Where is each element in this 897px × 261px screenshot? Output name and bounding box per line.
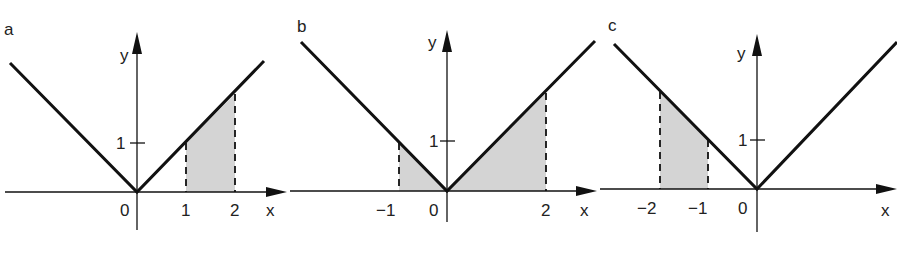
y-tick-label: 1 — [738, 131, 747, 150]
function-graph — [614, 42, 897, 189]
y-axis-label: y — [737, 44, 746, 63]
x-tick-label: 0 — [120, 201, 129, 220]
x-tick-label: 1 — [181, 201, 190, 220]
panel-a: a y 1 0 1 2 x — [4, 20, 287, 230]
x-axis-label: x — [881, 201, 890, 220]
shaded-region — [186, 94, 235, 192]
y-axis-arrow-icon — [442, 30, 452, 52]
y-axis-label: y — [428, 33, 437, 52]
y-axis-label: y — [120, 46, 129, 65]
shaded-region — [399, 93, 546, 191]
x-axis-arrow-icon — [576, 186, 597, 196]
panel-c: c y 1 −2 −1 0 x — [600, 16, 897, 232]
figure: a y 1 0 1 2 x b y 1 −1 0 2 x c — [0, 0, 897, 261]
x-axis-arrow-icon — [266, 187, 287, 197]
panel-b: b y 1 −1 0 2 x — [290, 17, 597, 222]
x-tick-label: −1 — [688, 199, 707, 218]
x-axis-label: x — [580, 201, 589, 220]
y-axis-arrow-icon — [132, 32, 142, 54]
panel-label: c — [608, 16, 617, 35]
x-tick-label: 0 — [738, 199, 747, 218]
x-axis-arrow-icon — [876, 184, 897, 194]
y-tick-label: 1 — [429, 132, 438, 151]
function-graph — [301, 41, 595, 191]
shaded-region — [660, 92, 708, 189]
x-tick-label: −1 — [376, 201, 395, 220]
panel-label: a — [4, 20, 14, 39]
x-tick-label: 0 — [429, 201, 438, 220]
x-axis-label: x — [266, 201, 275, 220]
y-tick-label: 1 — [116, 134, 125, 153]
x-tick-label: 2 — [541, 201, 550, 220]
x-tick-label: 2 — [230, 201, 239, 220]
x-tick-label: −2 — [637, 199, 656, 218]
y-axis-arrow-icon — [752, 34, 762, 56]
panel-label: b — [297, 17, 306, 36]
